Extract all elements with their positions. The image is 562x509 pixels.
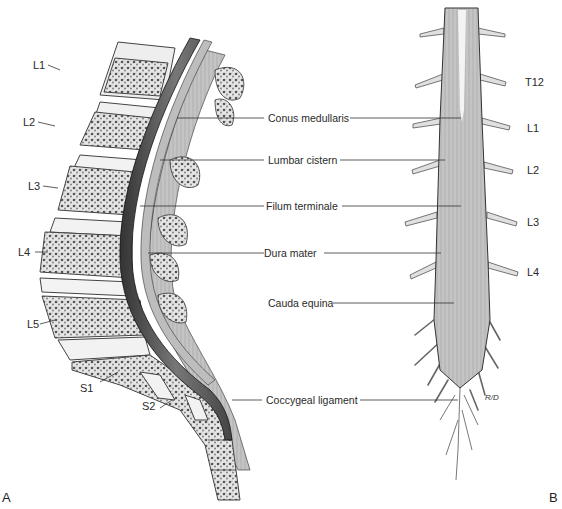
- label-l2-a: L2: [23, 116, 35, 128]
- panel-a-spine: [40, 38, 250, 500]
- label-coccygeal-ligament: Coccygeal ligament: [266, 394, 358, 406]
- label-s1: S1: [80, 382, 93, 394]
- panel-letter-a: A: [2, 490, 11, 505]
- label-l3-b: L3: [527, 216, 539, 228]
- label-cauda-equina: Cauda equina: [268, 297, 333, 309]
- label-l4-b: L4: [527, 266, 539, 278]
- panel-b-cauda-equina: [405, 8, 518, 480]
- label-dura-mater: Dura mater: [264, 247, 317, 259]
- label-conus-medullaris: Conus medullaris: [268, 112, 349, 124]
- label-l2-b: L2: [527, 164, 539, 176]
- label-lumbar-cistern: Lumbar cistern: [268, 154, 337, 166]
- panel-letter-b: B: [549, 490, 558, 505]
- label-t12: T12: [525, 76, 544, 88]
- label-l5-a: L5: [27, 318, 39, 330]
- label-l4-a: L4: [18, 246, 30, 258]
- label-filum-terminale: Filum terminale: [266, 200, 338, 212]
- artist-signature: R/D: [485, 393, 499, 402]
- label-s2: S2: [142, 400, 155, 412]
- label-l1-a: L1: [33, 59, 45, 71]
- label-l3-a: L3: [28, 180, 40, 192]
- label-l1-b: L1: [527, 122, 539, 134]
